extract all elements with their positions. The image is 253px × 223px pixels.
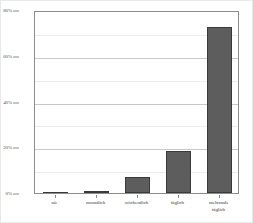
- y-axis-tick-label: 20%: [3, 145, 12, 151]
- x-axis-tick-label: täglich: [171, 200, 184, 207]
- x-axis-tick-label: monatlich: [86, 200, 105, 207]
- bar-chart-figure: 80%60%40%20%0% niemonatlichwöchentlichtä…: [0, 0, 253, 223]
- bar[interactable]: [125, 177, 150, 193]
- bar[interactable]: [84, 191, 109, 193]
- y-axis-tick-label: 40%: [3, 100, 12, 106]
- bars-group: [35, 12, 238, 193]
- bar-slot: [43, 12, 68, 193]
- x-axis-tick-mark: [96, 195, 97, 198]
- bar-slot: [84, 12, 109, 193]
- y-axis-tick-mark: [13, 11, 19, 12]
- x-axis: niemonatlichwöchentlichtäglichmehrmals t…: [34, 195, 239, 223]
- y-axis-tick-mark: [13, 148, 19, 149]
- plot-area: [34, 11, 239, 194]
- bar-slot: [166, 12, 191, 193]
- bar[interactable]: [166, 151, 191, 193]
- x-axis-tick-label: wöchentlich: [125, 200, 148, 207]
- bar[interactable]: [43, 192, 68, 193]
- x-axis-tick-mark: [219, 195, 220, 198]
- y-axis-tick-mark: [13, 56, 19, 57]
- bar-slot: [207, 12, 232, 193]
- x-axis-tick-label: mehrmals täglich: [209, 200, 228, 213]
- y-axis-tick-label: 60%: [3, 54, 12, 60]
- x-axis-tick-mark: [137, 195, 138, 198]
- y-axis-tick-label: 80%: [3, 8, 12, 14]
- y-axis-tick-mark: [13, 102, 19, 103]
- bar[interactable]: [207, 27, 232, 193]
- x-axis-tick-mark: [55, 195, 56, 198]
- y-axis-tick-mark: [13, 194, 19, 195]
- y-axis: 80%60%40%20%0%: [0, 0, 34, 223]
- x-axis-tick-label: nie: [52, 200, 58, 207]
- x-axis-tick-mark: [178, 195, 179, 198]
- y-axis-tick-label: 0%: [6, 191, 12, 197]
- bar-slot: [125, 12, 150, 193]
